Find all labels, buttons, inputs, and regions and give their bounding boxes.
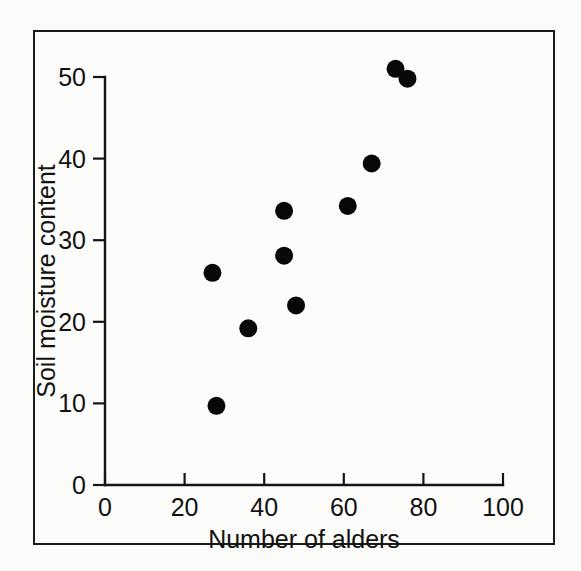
data-point xyxy=(363,155,381,173)
x-axis-ticks xyxy=(105,473,503,485)
y-tick-label-40: 40 xyxy=(58,145,86,173)
data-points-layer xyxy=(203,60,416,415)
x-tick-label-40: 40 xyxy=(250,493,278,521)
x-axis-title: Number of alders xyxy=(208,525,400,553)
x-tick-label-100: 100 xyxy=(482,493,524,521)
y-axis-title: Soil moisture content xyxy=(32,164,60,398)
x-tick-label-0: 0 xyxy=(98,493,112,521)
data-point xyxy=(275,202,293,220)
figure-canvas: 0 10 20 30 40 50 0 20 40 60 xyxy=(0,0,581,571)
y-axis-tick-labels: 0 10 20 30 40 50 xyxy=(58,63,86,499)
data-point xyxy=(203,264,221,282)
data-point xyxy=(207,397,225,415)
data-point xyxy=(339,197,357,215)
y-tick-label-30: 30 xyxy=(58,226,86,254)
y-tick-label-0: 0 xyxy=(72,471,86,499)
data-point xyxy=(287,296,305,314)
y-tick-label-20: 20 xyxy=(58,308,86,336)
y-axis-ticks xyxy=(93,77,105,485)
y-tick-label-50: 50 xyxy=(58,63,86,91)
data-point xyxy=(275,247,293,265)
x-tick-label-80: 80 xyxy=(409,493,437,521)
data-point xyxy=(239,319,257,337)
x-tick-label-20: 20 xyxy=(171,493,199,521)
y-tick-label-10: 10 xyxy=(58,389,86,417)
x-tick-label-60: 60 xyxy=(330,493,358,521)
data-point xyxy=(398,70,416,88)
scatter-plot-svg: 0 10 20 30 40 50 0 20 40 60 xyxy=(0,0,581,571)
x-axis-tick-labels: 0 20 40 60 80 100 xyxy=(98,493,524,521)
scatter-plot: 0 10 20 30 40 50 0 20 40 60 xyxy=(0,0,581,571)
